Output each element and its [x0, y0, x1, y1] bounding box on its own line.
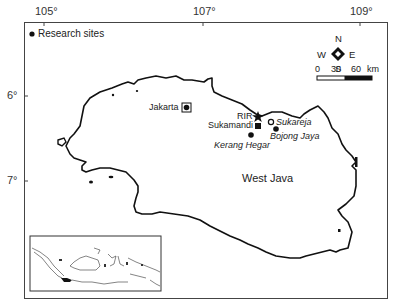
compass-west: W	[317, 49, 326, 60]
place-kerang-hegar: Kerang Hegar	[214, 140, 270, 150]
legend-label: Research sites	[38, 28, 104, 39]
region-label-west-java: West Java	[242, 172, 293, 184]
map-graphics	[0, 0, 397, 308]
compass-north: N	[335, 33, 342, 44]
compass-east: E	[349, 49, 355, 60]
axis-ticks	[24, 22, 360, 181]
scale-label-60: 60	[351, 64, 361, 74]
scale-label-30: 30	[331, 64, 341, 74]
compass-graphic	[331, 47, 345, 61]
place-jakarta: Jakarta	[149, 102, 179, 112]
west-java-outline	[66, 76, 356, 258]
place-sukamandi: Sukamandi	[208, 120, 253, 130]
scale-unit: km	[367, 64, 379, 74]
place-bojong-jaya: Bojong Jaya	[270, 131, 320, 141]
place-sukareja: Sukareja	[276, 117, 312, 127]
scale-bar-graphic	[317, 76, 372, 80]
scale-label-0: 0	[315, 64, 320, 74]
legend-dot	[29, 31, 34, 36]
